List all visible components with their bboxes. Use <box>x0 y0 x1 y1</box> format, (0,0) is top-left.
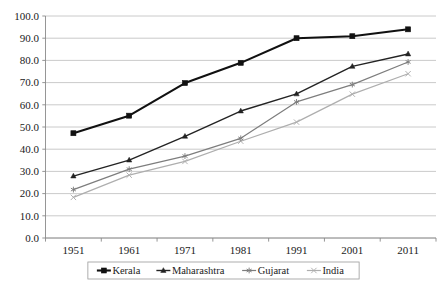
chart-container: 0.010.020.030.040.050.060.070.080.090.01… <box>0 0 447 292</box>
y-axis-tick-label: 20.0 <box>20 187 40 199</box>
data-point-india-2001 <box>350 91 355 96</box>
data-point-india-1991 <box>294 119 299 124</box>
legend-item-kerala[interactable]: Kerala <box>97 265 141 276</box>
y-axis-tick-label: 60.0 <box>20 99 40 111</box>
y-axis-line-group <box>42 16 45 238</box>
x-axis-tick-label: 1951 <box>62 244 84 256</box>
y-axis-tick-label: 0.0 <box>25 232 39 244</box>
x-axis-tick-label: 2011 <box>397 244 419 256</box>
y-axis-tick-label: 30.0 <box>20 165 40 177</box>
y-axis-tick-label: 10.0 <box>20 210 40 222</box>
x-axis-tick-label: 1981 <box>230 244 252 256</box>
data-point-kerala-1971 <box>182 81 187 86</box>
legend-item-maharashtra[interactable]: Maharashtra <box>156 265 224 276</box>
data-point-kerala-1991 <box>294 36 299 41</box>
data-point-maharashtra-2011 <box>405 51 410 56</box>
series-line-kerala <box>73 29 408 133</box>
data-point-india-1951 <box>71 195 76 200</box>
y-axis-tick-label: 80.0 <box>20 54 40 66</box>
y-axis-tick-label: 90.0 <box>20 32 40 44</box>
line-chart: 0.010.020.030.040.050.060.070.080.090.01… <box>0 0 447 292</box>
data-point-gujarat-2011 <box>406 59 411 65</box>
gridlines-group <box>46 16 437 238</box>
data-point-kerala-1961 <box>127 113 132 118</box>
series-line-maharashtra <box>73 54 408 176</box>
legend-label-gujarat: Gujarat <box>258 265 290 276</box>
legend-label-india: India <box>322 265 344 276</box>
series-maharashtra <box>71 51 411 178</box>
y-axis-tick-label: 100.0 <box>14 10 39 22</box>
series-line-gujarat <box>73 62 408 190</box>
data-point-gujarat-1951 <box>71 187 76 193</box>
x-axis-tick-labels: 1951196119711981199120012011 <box>62 244 419 256</box>
data-point-india-2011 <box>405 71 410 76</box>
legend-item-india[interactable]: India <box>307 265 344 276</box>
data-point-kerala-2001 <box>350 34 355 39</box>
chart-legend: KeralaMaharashtraGujaratIndia <box>88 262 359 279</box>
y-axis-tick-label: 50.0 <box>20 121 40 133</box>
data-series-group <box>71 27 411 200</box>
x-axis-tick-label: 2001 <box>341 244 363 256</box>
x-axis-tick-label: 1961 <box>118 244 140 256</box>
legend-marker-kerala-icon <box>101 268 106 273</box>
y-axis-tick-label: 40.0 <box>20 143 40 155</box>
legend-label-maharashtra: Maharashtra <box>172 265 225 276</box>
y-axis-tick-labels: 0.010.020.030.040.050.060.070.080.090.01… <box>14 10 39 244</box>
x-axis-tick-label: 1991 <box>286 244 308 256</box>
y-axis-tick-label: 70.0 <box>20 76 40 88</box>
series-gujarat <box>71 59 411 192</box>
x-axis-tick-label: 1971 <box>174 244 196 256</box>
x-axis-line-group <box>46 238 437 242</box>
data-point-kerala-2011 <box>406 27 411 32</box>
legend-item-gujarat[interactable]: Gujarat <box>242 265 289 276</box>
data-point-kerala-1981 <box>238 60 243 65</box>
legend-label-kerala: Kerala <box>112 265 140 276</box>
data-point-kerala-1951 <box>71 131 76 136</box>
